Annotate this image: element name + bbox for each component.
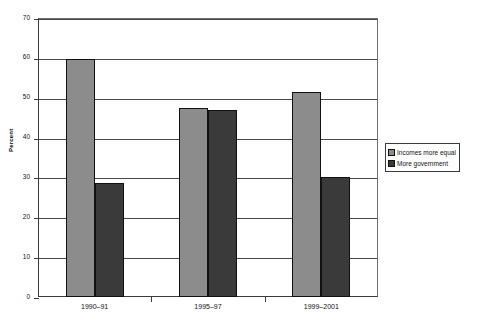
y-tick-mark <box>34 139 39 140</box>
y-tick-label: 60 <box>6 54 30 61</box>
y-tick-mark <box>34 298 39 299</box>
y-tick-label: 10 <box>6 254 30 261</box>
x-tick-mark <box>151 297 152 302</box>
bar-chart: Percent 010203040506070 1990–911995–9719… <box>0 0 496 330</box>
y-tick-mark <box>34 218 39 219</box>
legend-swatch-icon <box>388 160 395 167</box>
bar <box>179 108 208 297</box>
bar-group <box>179 18 237 297</box>
legend-swatch-icon <box>388 149 395 156</box>
y-tick-mark <box>34 258 39 259</box>
y-tick-label: 70 <box>6 15 30 22</box>
legend-item[interactable]: More government <box>388 158 456 168</box>
bar <box>208 110 237 297</box>
legend-item[interactable]: Incomes more equal <box>388 147 456 157</box>
y-tick-mark <box>34 19 39 20</box>
bar <box>95 183 124 297</box>
bar <box>292 92 321 297</box>
x-tick-mark <box>265 297 266 302</box>
bar <box>66 59 95 297</box>
y-tick-label: 40 <box>6 134 30 141</box>
legend-item-label: More government <box>397 160 448 167</box>
bar-group <box>66 18 124 297</box>
bar-group <box>292 18 350 297</box>
y-tick-mark <box>34 99 39 100</box>
legend-item-label: Incomes more equal <box>397 149 456 156</box>
y-tick-label: 30 <box>6 174 30 181</box>
y-axis-label: Percent <box>8 82 14 152</box>
y-tick-mark <box>34 178 39 179</box>
y-tick-label: 20 <box>6 214 30 221</box>
bar <box>321 177 350 297</box>
x-tick-label: 1999–2001 <box>276 303 366 311</box>
y-tick-label: 0 <box>6 294 30 301</box>
legend: Incomes more equalMore government <box>385 143 460 172</box>
y-tick-label: 50 <box>6 94 30 101</box>
y-tick-mark <box>34 59 39 60</box>
x-tick-label: 1995–97 <box>163 303 253 311</box>
x-tick-label: 1990–91 <box>50 303 140 311</box>
